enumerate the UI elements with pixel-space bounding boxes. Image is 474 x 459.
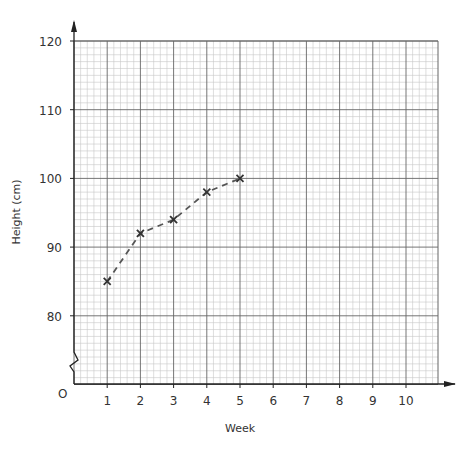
x-tick-label: 4 xyxy=(203,394,211,408)
origin-label: O xyxy=(58,387,67,401)
x-tick-label: 10 xyxy=(398,394,413,408)
y-tick-label: 110 xyxy=(39,104,62,118)
x-tick-label: 6 xyxy=(269,394,277,408)
grid-minor xyxy=(74,41,438,384)
chart: 123456789108090100110120 O Week Height (… xyxy=(0,0,474,459)
y-tick-label: 120 xyxy=(39,35,62,49)
x-tick-label: 5 xyxy=(236,394,244,408)
x-tick-label: 7 xyxy=(303,394,311,408)
x-tick-label: 9 xyxy=(369,394,377,408)
x-tick-label: 2 xyxy=(137,394,145,408)
x-tick-label: 1 xyxy=(103,394,111,408)
y-tick-label: 90 xyxy=(47,241,62,255)
x-tick-label: 3 xyxy=(170,394,178,408)
y-tick-label: 100 xyxy=(39,172,62,186)
tick-labels: 123456789108090100110120 xyxy=(39,35,414,408)
x-tick-label: 8 xyxy=(336,394,344,408)
y-axis-label: Height (cm) xyxy=(10,179,23,244)
y-tick-label: 80 xyxy=(47,310,62,324)
x-axis-label: Week xyxy=(225,422,256,435)
